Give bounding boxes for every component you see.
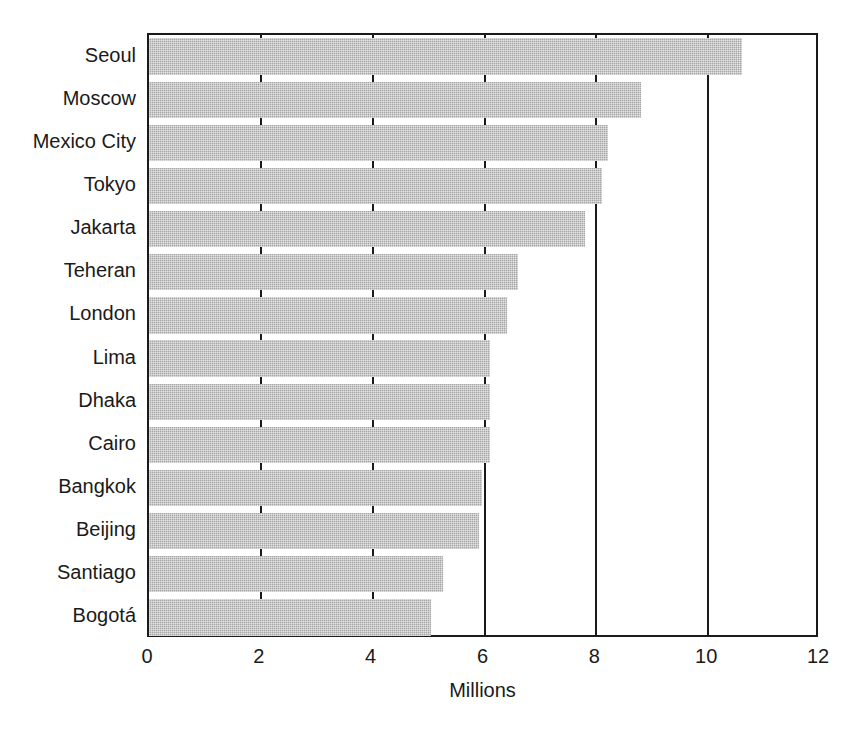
bar <box>149 297 507 333</box>
figure-caption <box>150 722 810 734</box>
category-label: Bangkok <box>0 476 136 496</box>
category-label: Beijing <box>0 519 136 539</box>
category-label: Mexico City <box>0 131 136 151</box>
category-label: Lima <box>0 347 136 367</box>
bar <box>149 168 602 204</box>
category-label: Santiago <box>0 562 136 582</box>
x-tick-label: 12 <box>807 645 829 667</box>
category-label: Cairo <box>0 433 136 453</box>
bars-group <box>149 35 816 635</box>
x-axis-tick-labels: 024681012 <box>147 645 818 675</box>
category-axis-labels: SeoulMoscowMexico CityTokyoJakartaTehera… <box>0 33 136 637</box>
x-tick-label: 2 <box>253 645 264 667</box>
bar <box>149 384 490 420</box>
bar <box>149 427 490 463</box>
x-tick-label: 0 <box>141 645 152 667</box>
bar <box>149 340 490 376</box>
x-axis-title: Millions <box>147 678 818 702</box>
bar <box>149 254 518 290</box>
bar <box>149 470 482 506</box>
bar <box>149 38 742 74</box>
figure-bar-chart-population: SeoulMoscowMexico CityTokyoJakartaTehera… <box>0 0 855 734</box>
bar <box>149 599 431 635</box>
plot-area <box>147 33 818 637</box>
category-label: Seoul <box>0 45 136 65</box>
category-label: Tokyo <box>0 174 136 194</box>
bar <box>149 211 585 247</box>
category-label: Moscow <box>0 88 136 108</box>
x-tick-label: 8 <box>589 645 600 667</box>
bar <box>149 513 479 549</box>
bar <box>149 556 443 592</box>
bar <box>149 125 608 161</box>
x-tick-label: 10 <box>695 645 717 667</box>
category-label: Teheran <box>0 260 136 280</box>
x-tick-label: 6 <box>477 645 488 667</box>
category-label: Jakarta <box>0 217 136 237</box>
category-label: Bogotá <box>0 605 136 625</box>
x-tick-label: 4 <box>365 645 376 667</box>
category-label: Dhaka <box>0 390 136 410</box>
category-label: London <box>0 303 136 323</box>
bar <box>149 82 641 118</box>
